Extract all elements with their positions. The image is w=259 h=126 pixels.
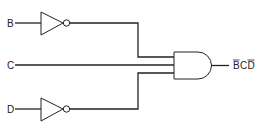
output-label-b: B [233,60,240,71]
input-label-b: B [7,18,14,29]
logic-circuit-diagram: B C D B C D [0,0,259,126]
output-label-d: D [248,60,255,71]
inversion-bubble-d [63,106,69,112]
input-label-d: D [7,104,14,115]
output-label: B C D [233,60,255,71]
input-label-c: C [7,60,14,71]
not-gate-d-icon [41,98,63,121]
not-gate-b-icon [41,12,63,35]
input-b-path [15,12,174,57]
output-label-c: C [240,60,247,71]
and-gate-icon [174,52,212,79]
input-d-path [15,73,174,121]
inversion-bubble-b [63,20,69,26]
